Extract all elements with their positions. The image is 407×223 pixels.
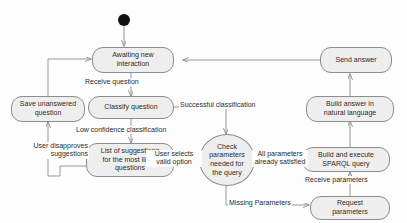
state-diagram-canvas: Awaiting new interaction Send answer Sav… [0,0,407,223]
transition-label-receive-question: Receive question [84,78,140,86]
state-label: Awaiting new interaction [112,51,153,68]
state-label: Build and execute SPARQL query [318,151,374,168]
state-request-parameters[interactable]: Request parameters [310,196,390,220]
edge-successful-classification [174,107,226,134]
state-label: Save unanswered question [20,100,76,117]
transition-label-successful-classification: Successful classification [179,101,256,109]
transition-label-all-satisfied: All parameters already satisfied [252,150,308,167]
state-save-unanswered-question[interactable]: Save unanswered question [11,96,85,122]
state-label: Check parameters needed for the query [209,143,245,177]
transition-label-user-selects: User selects valid option [146,150,202,167]
state-label: Send answer [335,56,376,65]
state-classify-question[interactable]: Classify question [88,96,174,119]
state-label: Request parameters [332,199,368,216]
state-send-answer[interactable]: Send answer [320,47,392,73]
transition-label-user-disapproves: User disapproves suggestions [5,142,89,159]
state-label: Classify question [104,103,157,112]
transition-label-receive-parameters: Receive parameters [304,176,369,184]
initial-node [118,14,130,26]
transition-label-low-confidence: Low confidence classification [75,126,167,134]
transition-label-missing-parameters: Missing Parameters [228,199,292,207]
state-check-parameters[interactable]: Check parameters needed for the query [199,134,255,186]
state-build-execute-sparql-query[interactable]: Build and execute SPARQL query [302,147,390,172]
state-label: Build answer in natural language [324,100,376,117]
state-build-answer-natural-language[interactable]: Build answer in natural language [306,96,394,122]
state-awaiting-new-interaction[interactable]: Awaiting new interaction [92,47,174,73]
